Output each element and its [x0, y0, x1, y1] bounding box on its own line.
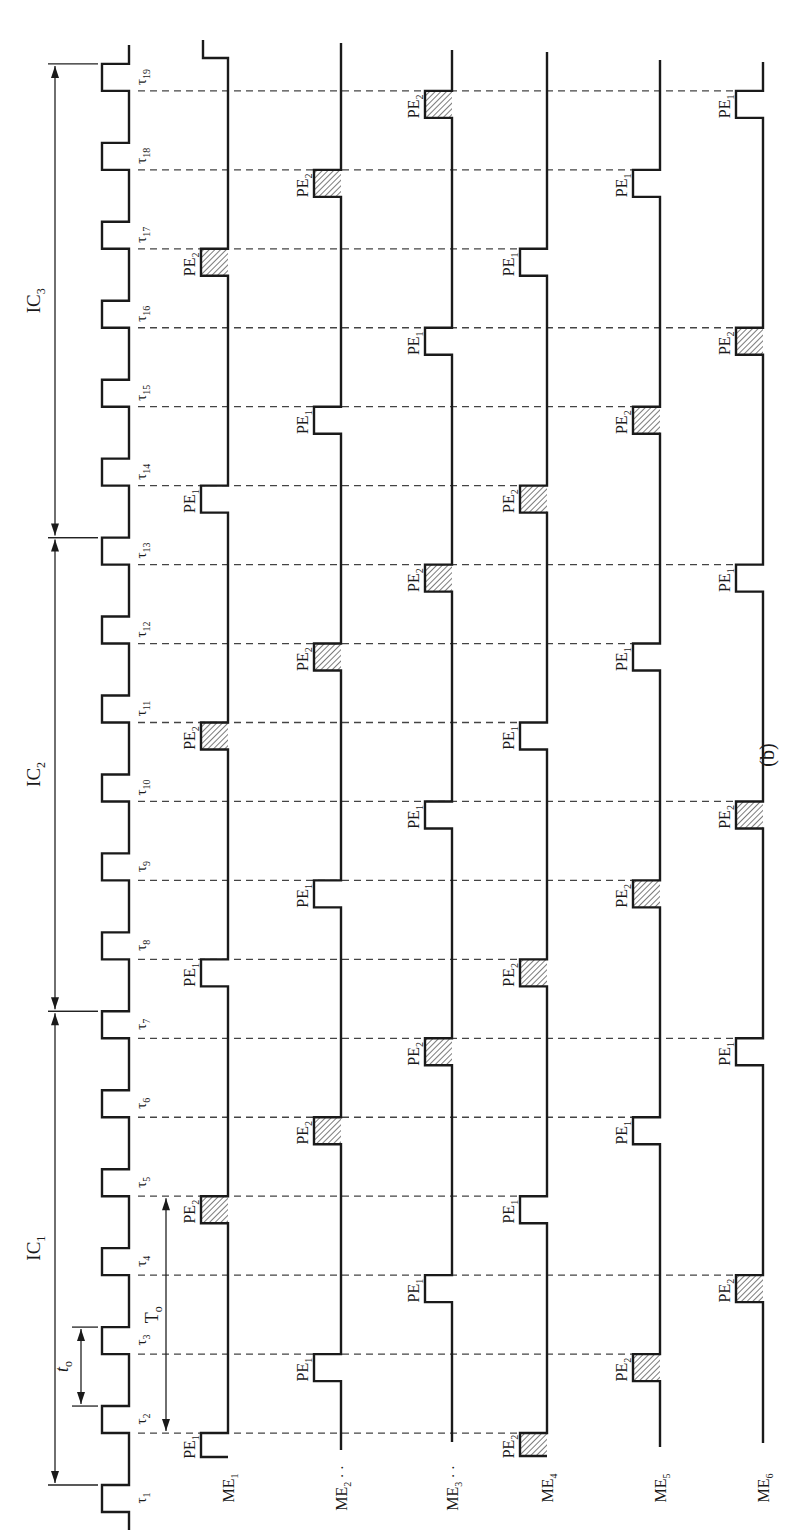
pe2-hatched-pulse [425, 91, 452, 118]
pe2-hatched-pulse [736, 328, 763, 355]
labels: τ1τ2τ3τ4τ5τ6τ7τ8τ9τ10τ11τ12τ13τ14τ15τ16τ… [23, 69, 775, 1511]
tau-label: τ7 [133, 1019, 152, 1030]
pe2-label: PE2 [613, 1358, 633, 1382]
pe2-hatched-pulse [520, 486, 547, 513]
span-label: To [142, 1306, 165, 1323]
channel-label: ME2 · · [333, 1465, 353, 1510]
pe2-label: PE2 [716, 331, 736, 355]
tau-label: τ2 [133, 1414, 152, 1425]
pe2-label: PE2 [294, 647, 314, 671]
pe1-label: PE1 [500, 726, 520, 750]
pe2-hatched-pulse [201, 249, 228, 276]
tau-label: τ13 [133, 543, 152, 559]
tau-label: τ16 [133, 306, 152, 322]
pe1-label: PE1 [716, 95, 736, 119]
pe1-label: PE1 [294, 884, 314, 908]
pe2-label: PE2 [716, 1279, 736, 1303]
pe1-label: PE1 [500, 1200, 520, 1224]
clock-waveform [102, 45, 129, 1530]
channel-label: ME5 [652, 1474, 672, 1503]
tau-label: τ12 [133, 622, 152, 638]
pe2-label: PE2 [613, 410, 633, 434]
pe1-label: PE1 [405, 331, 425, 355]
tau-label: τ19 [133, 69, 152, 85]
tau-label: τ15 [133, 385, 152, 401]
pe2-hatched-pulse [736, 1275, 763, 1302]
pe1-label: PE1 [405, 1279, 425, 1303]
channel-signal-2 [314, 43, 341, 1450]
pe1-label: PE1 [181, 489, 201, 513]
pe2-hatched-pulse [736, 801, 763, 828]
pe2-label: PE2 [613, 884, 633, 908]
pe2-label: PE2 [405, 1042, 425, 1066]
interval-label: IC3 [23, 288, 48, 313]
channel-label: ME1 [220, 1474, 240, 1503]
pe2-hatched-pulse [520, 959, 547, 986]
pe1-label: PE1 [294, 410, 314, 434]
pe2-hatched-pulse [425, 565, 452, 592]
pe2-hatched-pulse [314, 644, 341, 671]
tau-label: τ5 [133, 1177, 152, 1188]
pe2-hatched-pulse [633, 880, 660, 907]
pe1-label: PE1 [716, 568, 736, 592]
pe2-label: PE2 [294, 174, 314, 198]
tau-label: τ18 [133, 148, 152, 164]
pe1-label: PE1 [613, 1121, 633, 1145]
pe2-label: PE2 [500, 489, 520, 513]
pe2-label: PE2 [500, 963, 520, 987]
pe2-label: PE2 [294, 1121, 314, 1145]
pe2-hatched-pulse [633, 1354, 660, 1381]
pe2-label: PE2 [405, 95, 425, 119]
pe2-label: PE2 [716, 805, 736, 829]
timing-diagram: τ1τ2τ3τ4τ5τ6τ7τ8τ9τ10τ11τ12τ13τ14τ15τ16τ… [0, 0, 811, 1530]
tau-label: τ3 [133, 1335, 152, 1346]
pe2-hatched-pulse [201, 723, 228, 750]
channel-label: ME3 · · [444, 1465, 464, 1510]
pe2-hatched-pulse [201, 1196, 228, 1223]
pe1-label: PE1 [294, 1358, 314, 1382]
channel-label: ME6 [755, 1474, 775, 1503]
tau-label: τ4 [133, 1256, 152, 1267]
pe1-label: PE1 [500, 252, 520, 276]
interval-label: IC2 [23, 762, 48, 787]
pe2-hatched-pulse [314, 1117, 341, 1144]
figure-caption: (b) [756, 743, 779, 766]
pe2-hatched-pulse [520, 1433, 547, 1456]
pe2-label: PE2 [181, 726, 201, 750]
pe2-label: PE2 [181, 1200, 201, 1224]
channel-signal-4 [520, 52, 547, 1456]
pe1-label: PE1 [613, 174, 633, 198]
pe1-label: PE1 [405, 805, 425, 829]
pe2-label: PE2 [405, 568, 425, 592]
tau-label: τ8 [133, 940, 152, 951]
channel-label: ME4 [539, 1474, 559, 1503]
tau-label: τ9 [133, 861, 152, 872]
pe2-hatched-pulse [633, 407, 660, 434]
clock-signal [102, 45, 129, 1530]
channel-signal-3 [425, 50, 452, 1442]
pe1-label: PE1 [716, 1042, 736, 1066]
pe2-hatched-pulse [425, 1038, 452, 1065]
pe1-label: PE1 [181, 1435, 201, 1459]
tau-label: τ17 [133, 227, 152, 243]
tau-label: τ11 [133, 701, 152, 717]
channel-signal-5 [633, 60, 660, 1447]
interval-label: IC1 [23, 1236, 48, 1261]
tau-label: τ6 [133, 1098, 152, 1109]
channel-waveforms [201, 40, 763, 1457]
tau-label: τ10 [133, 779, 152, 795]
pe2-hatched-pulse [314, 170, 341, 197]
pe2-label: PE2 [500, 1435, 520, 1459]
pe1-label: PE1 [181, 963, 201, 987]
tau-label: τ14 [133, 464, 152, 480]
pe1-label: PE1 [613, 647, 633, 671]
pe2-label: PE2 [181, 252, 201, 276]
tau-label: τ1 [133, 1492, 152, 1503]
